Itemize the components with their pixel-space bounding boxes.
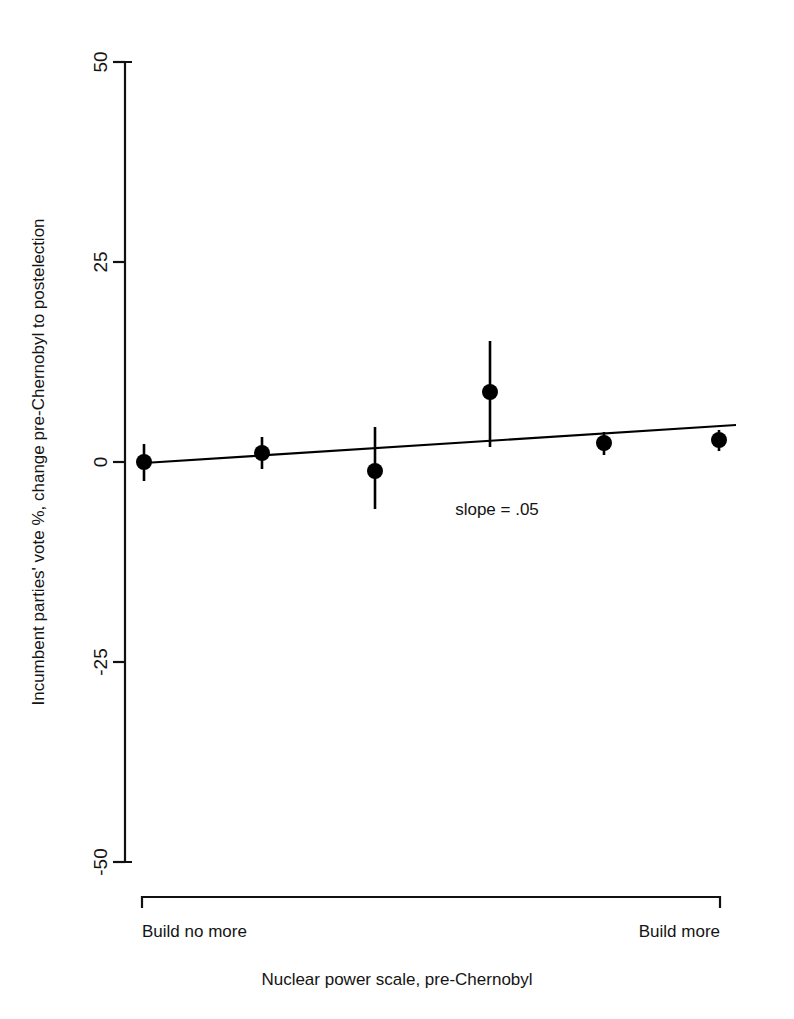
x-endlabel-right: Build more: [639, 922, 720, 941]
data-point-marker: [367, 463, 383, 479]
x-endlabel-left: Build no more: [142, 922, 247, 941]
data-point-group: [367, 427, 383, 509]
data-point-group: [254, 437, 270, 469]
data-point-marker: [136, 454, 152, 470]
y-ticklabel-25: 25: [90, 251, 111, 272]
figure-container: 50 25 0 -25 -50 Incumbent parties' vote …: [0, 0, 794, 1019]
data-point-marker: [482, 384, 498, 400]
data-point-group: [711, 430, 727, 451]
data-point-group: [596, 432, 612, 455]
y-ticklabel-neg50: -50: [90, 848, 111, 875]
fit-line: [144, 425, 736, 463]
data-point-group: [482, 341, 498, 447]
y-ticklabel-0: 0: [90, 457, 111, 468]
y-ticklabel-50: 50: [90, 51, 111, 72]
data-point-marker: [711, 432, 727, 448]
x-axis-title: Nuclear power scale, pre-Chernobyl: [261, 970, 532, 989]
data-point-marker: [254, 445, 270, 461]
data-point-group: [136, 444, 152, 481]
y-axis-spine: [125, 62, 132, 862]
y-axis-title: Incumbent parties' vote %, change pre-Ch…: [29, 218, 48, 705]
x-axis-bracket: [142, 897, 720, 908]
data-point-marker: [596, 435, 612, 451]
slope-annotation: slope = .05: [455, 500, 539, 519]
y-ticklabel-neg25: -25: [90, 648, 111, 675]
scatter-plot: 50 25 0 -25 -50 Incumbent parties' vote …: [0, 0, 794, 1019]
